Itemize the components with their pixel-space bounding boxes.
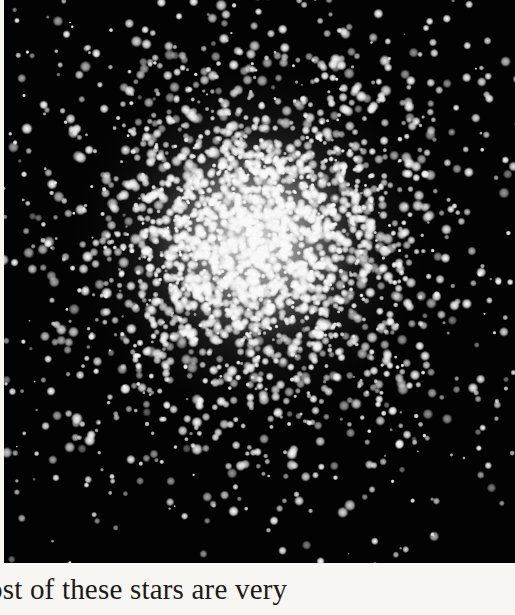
star-field [4, 0, 515, 563]
book-page: ost of these stars are very [0, 0, 515, 615]
globular-cluster-photo [4, 0, 515, 563]
caption-text: ost of these stars are very [0, 572, 287, 606]
